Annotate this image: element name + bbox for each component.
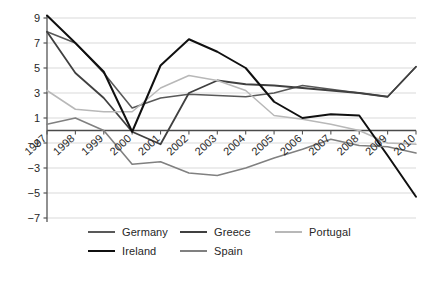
y-tick-label: 9 — [34, 12, 40, 24]
line-chart: 97531−1−3−5−7 19971998199920002001200220… — [0, 0, 425, 281]
y-tick-labels: 97531−1−3−5−7 — [27, 12, 40, 224]
y-tick-label: 1 — [34, 112, 40, 124]
legend-label-spain: Spain — [214, 245, 243, 257]
legend-label-germany: Germany — [122, 226, 168, 238]
x-tick-label: 1999 — [79, 132, 105, 157]
legend-label-ireland: Ireland — [122, 245, 156, 257]
legend-swatch-germany — [88, 231, 115, 233]
legend-swatch-ireland — [88, 250, 115, 252]
legend-swatch-spain — [180, 250, 207, 252]
legend-swatch-greece — [180, 231, 207, 233]
legend-row-1: Germany Greece Portugal — [0, 222, 425, 241]
y-tick-label: 3 — [34, 87, 40, 99]
legend-row-2: Ireland Spain — [0, 241, 425, 260]
x-tick-label: 2005 — [249, 132, 275, 157]
legend-item-portugal[interactable]: Portugal — [275, 226, 375, 238]
y-tick-label: 7 — [34, 37, 40, 49]
legend-item-germany[interactable]: Germany — [88, 226, 180, 238]
x-tick-label: 1997 — [22, 132, 48, 157]
series-line-portugal — [47, 76, 416, 145]
legend-item-ireland[interactable]: Ireland — [88, 245, 180, 257]
legend-item-spain[interactable]: Spain — [180, 245, 275, 257]
legend-label-portugal: Portugal — [309, 226, 351, 238]
x-tick-label: 2009 — [363, 132, 389, 157]
y-tick-label: −5 — [27, 187, 40, 199]
chart-legend: Germany Greece Portugal Ireland Spain — [0, 222, 425, 260]
legend-item-greece[interactable]: Greece — [180, 226, 275, 238]
series-line-greece — [47, 32, 416, 145]
x-tick-label: 1998 — [50, 132, 76, 157]
x-tick-label: 2004 — [221, 132, 247, 157]
y-tick-label: −3 — [27, 162, 40, 174]
legend-swatch-portugal — [275, 231, 302, 233]
legend-label-greece: Greece — [214, 226, 251, 238]
x-tick-label: 2003 — [192, 132, 218, 157]
x-tick-label: 2000 — [107, 132, 133, 157]
y-axis — [44, 15, 48, 222]
y-tick-label: 5 — [34, 62, 40, 74]
x-tick-label: 2002 — [164, 132, 190, 157]
x-tick-label: 2007 — [306, 132, 332, 157]
